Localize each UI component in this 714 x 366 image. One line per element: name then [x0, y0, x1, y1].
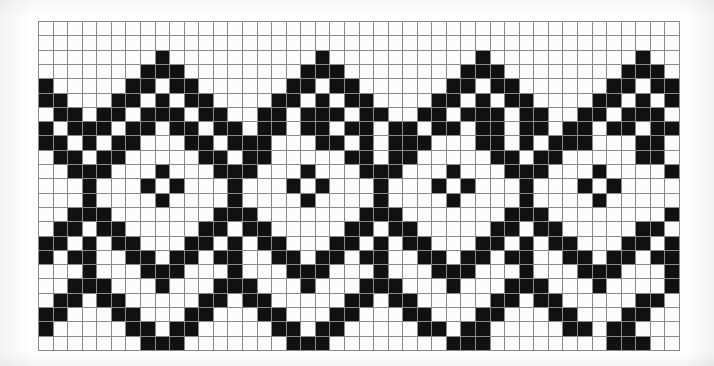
pattern-cell-filled[interactable] — [97, 108, 112, 122]
pattern-cell-filled[interactable] — [170, 65, 185, 79]
pattern-cell-empty[interactable] — [330, 165, 345, 179]
pattern-cell-empty[interactable] — [214, 79, 229, 93]
pattern-cell-empty[interactable] — [389, 308, 404, 322]
pattern-cell-empty[interactable] — [607, 108, 622, 122]
pattern-cell-empty[interactable] — [403, 194, 418, 208]
pattern-cell-filled[interactable] — [520, 122, 535, 136]
pattern-cell-empty[interactable] — [461, 151, 476, 165]
pattern-cell-filled[interactable] — [345, 294, 360, 308]
pattern-cell-empty[interactable] — [112, 337, 127, 351]
pattern-cell-empty[interactable] — [83, 222, 98, 236]
pattern-cell-empty[interactable] — [54, 179, 69, 193]
pattern-cell-filled[interactable] — [316, 94, 331, 108]
pattern-cell-empty[interactable] — [39, 51, 54, 65]
pattern-cell-empty[interactable] — [563, 208, 578, 222]
pattern-cell-empty[interactable] — [199, 279, 214, 293]
pattern-cell-empty[interactable] — [578, 237, 593, 251]
pattern-cell-empty[interactable] — [330, 151, 345, 165]
pattern-cell-empty[interactable] — [607, 194, 622, 208]
pattern-cell-filled[interactable] — [607, 79, 622, 93]
pattern-cell-empty[interactable] — [68, 36, 83, 50]
pattern-cell-empty[interactable] — [447, 294, 462, 308]
pattern-cell-empty[interactable] — [170, 151, 185, 165]
pattern-cell-filled[interactable] — [360, 294, 375, 308]
pattern-cell-empty[interactable] — [578, 308, 593, 322]
pattern-cell-empty[interactable] — [461, 22, 476, 36]
pattern-cell-empty[interactable] — [54, 122, 69, 136]
pattern-cell-empty[interactable] — [141, 151, 156, 165]
pattern-cell-filled[interactable] — [636, 51, 651, 65]
pattern-cell-empty[interactable] — [199, 51, 214, 65]
pattern-cell-empty[interactable] — [491, 194, 506, 208]
pattern-cell-empty[interactable] — [491, 36, 506, 50]
pattern-cell-filled[interactable] — [491, 308, 506, 322]
pattern-cell-empty[interactable] — [607, 36, 622, 50]
pattern-cell-filled[interactable] — [301, 79, 316, 93]
pattern-cell-empty[interactable] — [156, 79, 171, 93]
pattern-cell-empty[interactable] — [636, 208, 651, 222]
pattern-cell-filled[interactable] — [156, 337, 171, 351]
pattern-cell-empty[interactable] — [345, 51, 360, 65]
pattern-cell-empty[interactable] — [330, 222, 345, 236]
pattern-cell-filled[interactable] — [534, 294, 549, 308]
pattern-cell-filled[interactable] — [578, 122, 593, 136]
pattern-cell-empty[interactable] — [228, 294, 243, 308]
pattern-cell-filled[interactable] — [476, 65, 491, 79]
pattern-cell-filled[interactable] — [272, 251, 287, 265]
pattern-cell-filled[interactable] — [607, 94, 622, 108]
pattern-cell-filled[interactable] — [330, 65, 345, 79]
pattern-cell-empty[interactable] — [199, 65, 214, 79]
pattern-cell-empty[interactable] — [593, 136, 608, 150]
pattern-cell-empty[interactable] — [272, 222, 287, 236]
pattern-cell-empty[interactable] — [214, 94, 229, 108]
pattern-cell-empty[interactable] — [549, 208, 564, 222]
pattern-cell-empty[interactable] — [68, 322, 83, 336]
pattern-cell-empty[interactable] — [228, 36, 243, 50]
pattern-cell-empty[interactable] — [83, 51, 98, 65]
pattern-cell-filled[interactable] — [330, 251, 345, 265]
pattern-cell-empty[interactable] — [403, 165, 418, 179]
pattern-cell-filled[interactable] — [83, 208, 98, 222]
pattern-cell-empty[interactable] — [563, 79, 578, 93]
pattern-cell-empty[interactable] — [68, 308, 83, 322]
pattern-cell-empty[interactable] — [54, 337, 69, 351]
pattern-cell-empty[interactable] — [228, 322, 243, 336]
pattern-cell-empty[interactable] — [549, 51, 564, 65]
pattern-cell-filled[interactable] — [185, 237, 200, 251]
pattern-cell-empty[interactable] — [578, 65, 593, 79]
pattern-cell-filled[interactable] — [345, 308, 360, 322]
pattern-cell-empty[interactable] — [520, 36, 535, 50]
pattern-cell-empty[interactable] — [199, 22, 214, 36]
pattern-cell-filled[interactable] — [126, 237, 141, 251]
pattern-cell-empty[interactable] — [593, 22, 608, 36]
pattern-cell-empty[interactable] — [97, 51, 112, 65]
pattern-cell-empty[interactable] — [432, 194, 447, 208]
pattern-cell-filled[interactable] — [156, 94, 171, 108]
pattern-cell-empty[interactable] — [54, 208, 69, 222]
pattern-cell-empty[interactable] — [68, 237, 83, 251]
pattern-cell-empty[interactable] — [258, 165, 273, 179]
pattern-cell-empty[interactable] — [141, 165, 156, 179]
pattern-cell-filled[interactable] — [141, 322, 156, 336]
pattern-cell-empty[interactable] — [54, 22, 69, 36]
pattern-cell-empty[interactable] — [461, 237, 476, 251]
pattern-cell-empty[interactable] — [170, 222, 185, 236]
pattern-cell-empty[interactable] — [403, 79, 418, 93]
pattern-cell-empty[interactable] — [39, 22, 54, 36]
pattern-cell-empty[interactable] — [389, 322, 404, 336]
pattern-cell-empty[interactable] — [534, 22, 549, 36]
pattern-cell-empty[interactable] — [360, 322, 375, 336]
pattern-cell-empty[interactable] — [418, 294, 433, 308]
pattern-cell-filled[interactable] — [170, 108, 185, 122]
pattern-cell-empty[interactable] — [272, 337, 287, 351]
pattern-cell-empty[interactable] — [432, 222, 447, 236]
pattern-cell-empty[interactable] — [156, 251, 171, 265]
pattern-cell-empty[interactable] — [389, 51, 404, 65]
pattern-cell-empty[interactable] — [301, 322, 316, 336]
pattern-cell-filled[interactable] — [214, 251, 229, 265]
pattern-cell-filled[interactable] — [593, 194, 608, 208]
pattern-cell-empty[interactable] — [39, 179, 54, 193]
pattern-cell-empty[interactable] — [97, 237, 112, 251]
pattern-cell-empty[interactable] — [636, 251, 651, 265]
pattern-cell-empty[interactable] — [199, 208, 214, 222]
